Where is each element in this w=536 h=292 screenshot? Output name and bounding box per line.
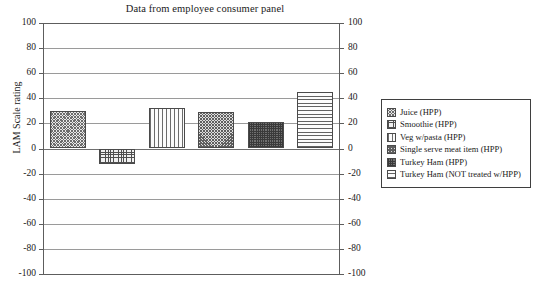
right-tick-mark xyxy=(340,199,344,200)
right-tick-label: 100 xyxy=(348,18,362,28)
left-tick-label: 0 xyxy=(31,144,36,154)
legend-item-label: Veg w/pasta (HPP) xyxy=(400,133,465,142)
left-tick-label: 60 xyxy=(27,68,37,78)
right-tick-label: -20 xyxy=(348,169,361,179)
bar xyxy=(50,111,86,149)
left-tick-mark xyxy=(39,73,43,74)
right-tick-label: 80 xyxy=(348,43,358,53)
left-tick-label: 20 xyxy=(27,118,37,128)
legend-item: Veg w/pasta (HPP) xyxy=(387,131,526,144)
legend-item: Turkey Ham (NOT treated w/HPP) xyxy=(387,169,526,182)
chart-figure: Data from employee consumer panel LAM Sc… xyxy=(0,0,536,292)
legend-item: Single serve meat item (HPP) xyxy=(387,144,526,157)
right-tick-label: 0 xyxy=(348,144,353,154)
right-tick-mark xyxy=(340,123,344,124)
right-tick-mark xyxy=(340,149,344,150)
gridline xyxy=(44,123,339,124)
bar xyxy=(99,149,135,164)
bottom-axis-line xyxy=(43,274,340,275)
right-tick-mark xyxy=(340,224,344,225)
left-tick-mark xyxy=(39,199,43,200)
left-tick-label: -20 xyxy=(23,169,36,179)
left-tick-label: -60 xyxy=(23,219,36,229)
legend-swatch-icon xyxy=(387,145,396,154)
left-tick-label: -40 xyxy=(23,194,36,204)
bar xyxy=(297,92,333,148)
right-tick-label: -60 xyxy=(348,219,361,229)
gridline xyxy=(44,98,339,99)
legend-item: Smoothie (HPP) xyxy=(387,119,526,132)
right-tick-mark xyxy=(340,174,344,175)
legend-item-label: Turkey Ham (HPP) xyxy=(400,158,467,167)
left-tick-label: -80 xyxy=(23,244,36,254)
left-tick-mark xyxy=(39,224,43,225)
left-tick-label: 80 xyxy=(27,43,37,53)
right-tick-label: -100 xyxy=(348,269,365,279)
right-tick-label: -80 xyxy=(348,244,361,254)
top-axis-line xyxy=(43,23,340,24)
y-axis-label: LAM Scale rating xyxy=(11,68,22,168)
gridline xyxy=(44,149,339,150)
bar xyxy=(198,112,234,148)
legend-swatch-icon xyxy=(387,158,396,167)
right-tick-mark xyxy=(340,249,344,250)
gridline xyxy=(44,73,339,74)
right-tick-mark xyxy=(340,48,344,49)
plot-area: 100100808060604040202000-20-20-40-40-60-… xyxy=(43,23,340,275)
right-tick-label: 20 xyxy=(348,118,358,128)
gridline xyxy=(44,249,339,250)
chart-title: Data from employee consumer panel xyxy=(55,3,355,14)
gridline xyxy=(44,174,339,175)
chart-legend: Juice (HPP)Smoothie (HPP)Veg w/pasta (HP… xyxy=(381,99,531,188)
left-tick-mark xyxy=(39,149,43,150)
left-tick-mark xyxy=(39,123,43,124)
legend-item-label: Juice (HPP) xyxy=(400,108,441,117)
right-tick-label: -40 xyxy=(348,194,361,204)
legend-item: Juice (HPP) xyxy=(387,106,526,119)
legend-swatch-icon xyxy=(387,133,396,142)
gridline xyxy=(44,224,339,225)
legend-swatch-icon xyxy=(387,170,396,179)
left-tick-mark xyxy=(39,98,43,99)
gridline xyxy=(44,199,339,200)
legend-item: Turkey Ham (HPP) xyxy=(387,156,526,169)
right-tick-label: 40 xyxy=(348,93,358,103)
right-tick-mark xyxy=(340,73,344,74)
legend-item-label: Turkey Ham (NOT treated w/HPP) xyxy=(400,170,521,179)
legend-swatch-icon xyxy=(387,120,396,129)
left-tick-mark xyxy=(39,23,43,24)
bar xyxy=(248,122,284,148)
left-tick-label: 100 xyxy=(22,18,36,28)
left-tick-mark xyxy=(39,48,43,49)
right-tick-label: 60 xyxy=(348,68,358,78)
left-tick-label: -100 xyxy=(19,269,36,279)
legend-swatch-icon xyxy=(387,108,396,117)
legend-item-label: Single serve meat item (HPP) xyxy=(400,145,502,154)
right-tick-mark xyxy=(340,274,344,275)
left-tick-label: 40 xyxy=(27,93,37,103)
left-tick-mark xyxy=(39,174,43,175)
bar xyxy=(149,108,185,148)
right-tick-mark xyxy=(340,98,344,99)
left-tick-mark xyxy=(39,249,43,250)
gridline xyxy=(44,48,339,49)
right-tick-mark xyxy=(340,23,344,24)
left-tick-mark xyxy=(39,274,43,275)
legend-item-label: Smoothie (HPP) xyxy=(400,120,457,129)
